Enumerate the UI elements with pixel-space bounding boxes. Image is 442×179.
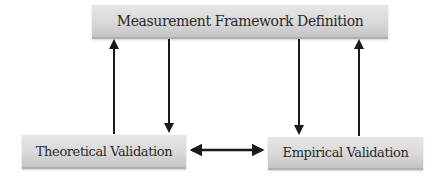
node-label: Theoretical Validation [36,144,172,159]
node-label: Empirical Validation [283,145,409,160]
node-theoretical-validation: Theoretical Validation [22,135,186,169]
node-label: Measurement Framework Definition [117,13,364,29]
node-empirical-validation: Empirical Validation [268,137,423,170]
node-measurement-framework-definition: Measurement Framework Definition [92,5,388,39]
